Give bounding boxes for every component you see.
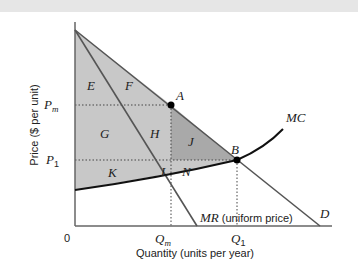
region-n-label: N: [181, 164, 192, 179]
region-l-label: L: [160, 164, 168, 179]
qm-label: Qm: [155, 231, 171, 248]
mc-label: MC: [285, 110, 306, 125]
region-k-label: K: [107, 165, 118, 180]
price-discrimination-diagram: A B E F G H J K L N MC MR (uniform price…: [0, 0, 358, 278]
region-h-label: H: [149, 126, 160, 141]
q1-label: Q1: [231, 231, 245, 248]
mr-label: MR (uniform price): [199, 210, 293, 225]
point-a-label: A: [175, 88, 184, 103]
region-f-label: F: [124, 78, 134, 93]
demand-label: D: [319, 206, 330, 221]
x-axis-title: Quantity (units per year): [136, 247, 254, 259]
p1-label: P1: [45, 152, 59, 169]
point-b-marker: [234, 157, 241, 164]
region-e-label: E: [86, 78, 95, 93]
y-axis-title: Price ($ per unit): [28, 84, 40, 165]
pm-label: Pm: [43, 97, 59, 114]
point-a-marker: [168, 102, 175, 109]
origin-label: 0: [64, 232, 70, 244]
point-b-label: B: [231, 142, 239, 157]
region-g-label: G: [100, 126, 110, 141]
